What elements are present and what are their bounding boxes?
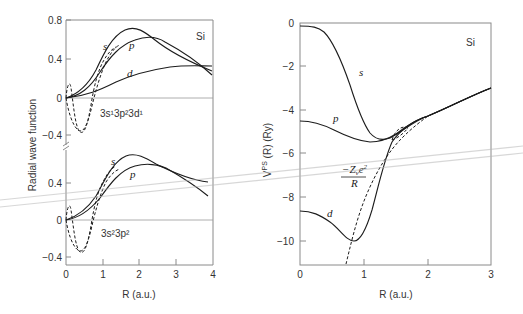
element-label: Si (196, 31, 205, 42)
curve-label-d: d (127, 67, 133, 79)
y-tick-label: −0.4 (42, 252, 62, 263)
coulomb-formula-label: −Zve2 R (341, 163, 368, 189)
config-label-bottom: 3s²3p² (101, 228, 130, 239)
x-tick-label: 0 (297, 269, 303, 280)
y-tick-label: 0.4 (48, 54, 62, 65)
y-tick-label: −4 (283, 105, 295, 116)
x-tick-label: 2 (425, 269, 431, 280)
bottom-y-ticks: 0.4 0 −0.4 (42, 178, 71, 263)
curve-p-top (66, 37, 212, 98)
curve-label-s: s (359, 66, 363, 78)
svg-text:R: R (350, 177, 358, 189)
curve-s-allelectron-bottom (66, 166, 116, 252)
y-tick-label: 0 (288, 18, 294, 29)
x-tick-label: 1 (361, 269, 367, 280)
x-tick-label: 3 (488, 269, 494, 280)
x-tick-label: 1 (100, 269, 106, 280)
curve-label-s: s (111, 155, 115, 167)
y-tick-label: 0.4 (48, 178, 62, 189)
x-axis-label: R (a.u.) (379, 289, 412, 300)
curve-label-s: s (103, 40, 107, 52)
right-x-ticks: 0 1 2 3 (297, 259, 494, 280)
y-axis-label: Radial wave function (27, 99, 38, 191)
element-label: Si (466, 37, 475, 48)
y-tick-label: −6 (283, 148, 295, 159)
x-tick-label: 0 (63, 269, 69, 280)
x-tick-label: 3 (173, 269, 179, 280)
y-tick-label: −10 (277, 236, 294, 247)
y-tick-label: 0 (56, 93, 62, 104)
curve-label-p: p (128, 39, 135, 51)
right-y-ticks: 0 −2 −4 −6 −8 −10 (277, 18, 306, 247)
left-frame (66, 20, 213, 265)
x-tick-label: 2 (136, 269, 142, 280)
curve-label-p: p (129, 168, 136, 180)
curve-p-bottom (66, 164, 208, 220)
x-tick-label: 4 (210, 269, 216, 280)
curve-s-potential (300, 26, 491, 140)
y-axis-label: VPS (R) (Ry) (261, 123, 273, 177)
figure-canvas: 0.8 0.4 0 −0.4 0.4 0 −0.4 0 1 2 3 4 R (a… (0, 0, 523, 314)
x-axis-label: R (a.u.) (122, 289, 155, 300)
top-y-ticks: 0.8 0.4 0 −0.4 (42, 15, 71, 141)
y-tick-label: −8 (283, 192, 295, 203)
curve-label-d: d (327, 207, 333, 219)
y-tick-label: −0.4 (42, 130, 62, 141)
left-x-ticks: 0 1 2 3 4 (63, 259, 216, 280)
curve-p-potential (300, 88, 491, 142)
y-tick-label: 0 (56, 215, 62, 226)
curve-label-p: p (332, 112, 339, 124)
right-frame (300, 23, 491, 265)
y-tick-label: −2 (283, 61, 295, 72)
left-chart: 0.8 0.4 0 −0.4 0.4 0 −0.4 0 1 2 3 4 R (a… (27, 15, 216, 300)
config-label-top: 3s¹3p²3d¹ (100, 108, 143, 119)
y-tick-label: 0.8 (48, 15, 62, 26)
